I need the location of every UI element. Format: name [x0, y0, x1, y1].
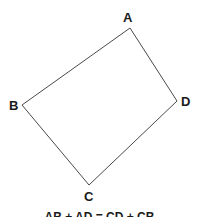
figure-caption: AB + AD = CD + CB [0, 211, 199, 217]
vertex-label-a: A [123, 11, 132, 24]
vertex-label-d: D [181, 95, 190, 108]
vertex-label-c: C [84, 190, 93, 203]
quadrilateral-shape [22, 28, 177, 185]
quadrilateral-diagram [0, 0, 199, 217]
geometry-figure: A B C D AB + AD = CD + CB [0, 0, 199, 217]
vertex-label-b: B [9, 99, 18, 112]
